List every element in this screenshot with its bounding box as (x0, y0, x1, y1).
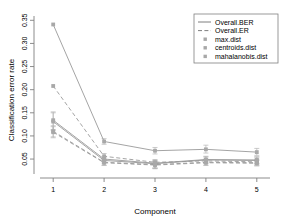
data-point (51, 23, 55, 27)
y-axis-title: Classification error rate (7, 58, 16, 141)
legend-point-swatch (204, 38, 207, 41)
x-tick-label: 4 (204, 186, 208, 193)
data-point (102, 140, 106, 144)
data-point (102, 161, 106, 165)
y-tick-label: 0.15 (21, 106, 28, 120)
y-tick-label: 0.35 (21, 13, 28, 27)
y-tick-label: 0.20 (21, 83, 28, 97)
data-point (204, 147, 208, 151)
y-tick-label: 0.25 (21, 60, 28, 74)
x-tick-label: 1 (51, 186, 55, 193)
x-tick-label: 2 (102, 186, 106, 193)
legend-point-swatch (204, 55, 207, 58)
data-point (51, 130, 55, 134)
data-point (255, 161, 259, 165)
legend-box: Overall.BEROverall.ERmax.distcentroids.d… (194, 14, 278, 63)
x-tick-label: 5 (255, 186, 259, 193)
data-point (51, 120, 55, 124)
legend-label: max.dist (215, 36, 241, 43)
legend-label: mahalanobis.dist (215, 53, 268, 60)
x-tick-label: 3 (153, 186, 157, 193)
classification-error-rate-plot: 123450.050.100.150.200.250.300.35 Overal… (0, 0, 286, 223)
data-point (51, 84, 55, 88)
data-point (153, 149, 157, 153)
data-point (255, 150, 259, 154)
data-point (204, 161, 208, 165)
y-tick-label: 0.30 (21, 37, 28, 51)
legend-label: Overall.ER (215, 27, 249, 34)
chart-container: 123450.050.100.150.200.250.300.35 Overal… (0, 0, 286, 223)
legend-label: centroids.dist (215, 44, 256, 51)
x-axis-title: Component (134, 207, 176, 216)
legend-label: Overall.BER (215, 19, 254, 26)
legend-point-swatch (204, 46, 207, 49)
data-point (153, 163, 157, 167)
y-tick-label: 0.10 (21, 129, 28, 143)
y-tick-label: 0.05 (21, 152, 28, 166)
